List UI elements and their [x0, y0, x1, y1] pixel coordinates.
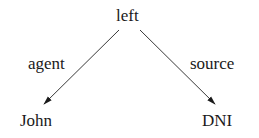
edge-label-agent: agent: [28, 55, 65, 72]
child-node-john: John: [20, 112, 52, 129]
edge-label-source: source: [190, 55, 234, 72]
child-node-dni: DNI: [202, 112, 232, 129]
root-node: left: [116, 7, 139, 24]
